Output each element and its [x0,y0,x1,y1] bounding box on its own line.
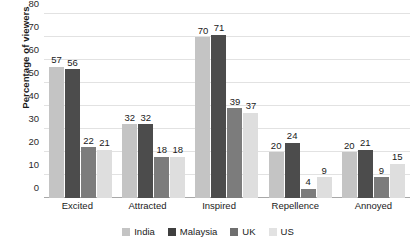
legend-item[interactable]: US [269,226,294,237]
bar-value-label: 20 [344,141,355,151]
bar-groups: 5756222132321818707139372024492021915 [44,14,410,198]
y-axis-tick-label: 10 [28,159,39,170]
x-axis-category-label: Repellence [272,200,320,211]
legend-item[interactable]: UK [230,226,255,237]
bar-value-label: 39 [230,97,241,107]
bar-value-label: 20 [271,141,282,151]
bar-value-label: 32 [140,113,151,123]
bar-slot: 21 [97,14,112,198]
x-axis-category-label: Annoyed [355,200,393,211]
bar[interactable] [122,124,137,198]
bar[interactable] [195,37,210,198]
bar[interactable] [154,157,169,198]
bar-value-label: 57 [51,55,62,65]
legend-swatch-icon [230,228,238,236]
bar-slot: 39 [227,14,242,198]
y-axis-title: Percentage of viewers [20,0,31,128]
bar[interactable] [358,150,373,198]
bar-slot: 4 [301,14,316,198]
bar[interactable] [65,69,80,198]
bar[interactable] [81,147,96,198]
legend-item[interactable]: India [122,226,155,237]
bar[interactable] [138,124,153,198]
bar-slot: 71 [211,14,226,198]
bar-slot: 37 [243,14,258,198]
legend-label: US [281,226,294,237]
bar[interactable] [49,67,64,198]
bar-slot: 15 [390,14,405,198]
x-axis-labels: ExcitedAttractedInspiredRepellenceAnnoye… [44,200,410,211]
bar-value-label: 21 [360,138,371,148]
bar-value-label: 56 [67,58,78,68]
legend-label: UK [242,226,255,237]
legend-swatch-icon [269,228,277,236]
legend-label: India [134,226,155,237]
y-axis-tick-label: 0 [34,182,39,193]
bar[interactable] [269,152,284,198]
bar-slot: 18 [154,14,169,198]
bar-chart: Percentage of viewers 80706050403020100 … [0,0,416,248]
bar[interactable] [243,113,258,198]
bar-value-label: 18 [172,145,183,155]
y-axis-tick-label: 20 [28,136,39,147]
bar-value-label: 24 [287,131,298,141]
y-axis-tick-label: 30 [28,113,39,124]
y-axis-tick-label: 60 [28,44,39,55]
bar-group: 202449 [269,14,332,198]
x-axis-category-label: Inspired [202,200,236,211]
bar[interactable] [390,164,405,199]
bar-slot: 24 [285,14,300,198]
bar[interactable] [317,177,332,198]
bar-slot: 32 [122,14,137,198]
bar[interactable] [97,150,112,198]
legend-swatch-icon [168,228,176,236]
bar[interactable] [301,189,316,198]
bar-slot: 57 [49,14,64,198]
x-axis-category-label: Excited [62,200,93,211]
legend-swatch-icon [122,228,130,236]
bar[interactable] [285,143,300,198]
bar-slot: 21 [358,14,373,198]
bar-group: 70713937 [195,14,258,198]
bar-value-label: 4 [306,177,311,187]
x-axis-category-label: Attracted [129,200,167,211]
bar-slot: 20 [269,14,284,198]
bar-value-label: 70 [198,26,209,36]
bar[interactable] [227,108,242,198]
legend-label: Malaysia [180,226,218,237]
bar-group: 2021915 [342,14,405,198]
bar-value-label: 71 [214,23,225,33]
legend: IndiaMalaysiaUKUS [0,226,416,237]
bar-group: 32321818 [122,14,185,198]
bar-slot: 32 [138,14,153,198]
bar[interactable] [342,152,357,198]
bar-slot: 56 [65,14,80,198]
y-axis-tick-label: 70 [28,21,39,32]
bar-slot: 9 [317,14,332,198]
bar-value-label: 37 [246,101,257,111]
bar-value-label: 9 [322,166,327,176]
bar-value-label: 15 [392,152,403,162]
bar[interactable] [374,177,389,198]
bar-value-label: 22 [83,136,94,146]
bar-slot: 18 [170,14,185,198]
bar-slot: 9 [374,14,389,198]
bar-value-label: 32 [124,113,135,123]
y-axis-tick-label: 80 [28,0,39,9]
bar-slot: 70 [195,14,210,198]
bar-value-label: 18 [156,145,167,155]
legend-item[interactable]: Malaysia [168,226,218,237]
bar-value-label: 21 [99,138,110,148]
bar-slot: 22 [81,14,96,198]
bar-slot: 20 [342,14,357,198]
y-axis-tick-label: 40 [28,90,39,101]
bar-value-label: 9 [379,166,384,176]
bar[interactable] [211,35,226,198]
bar-group: 57562221 [49,14,112,198]
plot-area: 80706050403020100 5756222132321818707139… [44,14,410,198]
y-axis-tick-label: 50 [28,67,39,78]
bar[interactable] [170,157,185,198]
